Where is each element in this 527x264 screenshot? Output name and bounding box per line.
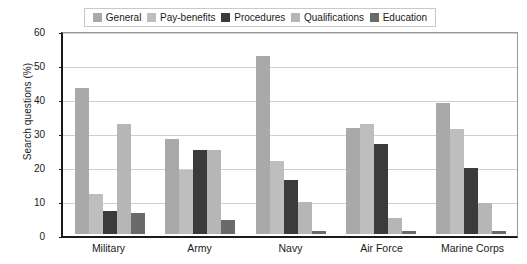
- y-axis-tick-mark: [59, 169, 63, 170]
- bar[interactable]: [312, 231, 326, 234]
- x-axis-tick-label: Army: [154, 242, 245, 254]
- x-axis-tick-label: Air Force: [336, 242, 427, 254]
- bar[interactable]: [117, 124, 131, 234]
- bar[interactable]: [492, 231, 506, 234]
- bar[interactable]: [464, 168, 478, 234]
- bar[interactable]: [374, 144, 388, 234]
- bar[interactable]: [75, 88, 89, 234]
- bar[interactable]: [131, 213, 145, 234]
- bar[interactable]: [284, 180, 298, 234]
- bar[interactable]: [450, 129, 464, 234]
- bar[interactable]: [207, 150, 221, 234]
- legend-swatch-icon: [221, 13, 230, 22]
- bar-chart: General Pay-benefits Procedures Qualific…: [0, 0, 527, 264]
- y-axis-tick-label: 40: [17, 96, 45, 106]
- bar[interactable]: [478, 203, 492, 234]
- y-axis-tick-mark: [59, 33, 63, 34]
- bar-groups: [65, 33, 516, 234]
- bar[interactable]: [402, 231, 416, 234]
- x-axis-tick-label: Navy: [245, 242, 336, 254]
- y-axis-tick-mark: [59, 67, 63, 68]
- bar[interactable]: [256, 56, 270, 234]
- bar[interactable]: [270, 161, 284, 234]
- bar[interactable]: [346, 128, 360, 234]
- y-axis-tick-mark: [59, 237, 63, 238]
- y-axis-tick-label: 0: [17, 232, 45, 242]
- bar[interactable]: [221, 220, 235, 234]
- x-axis-tick-label: Marine Corps: [427, 242, 518, 254]
- legend-item-label: Procedures: [234, 13, 285, 23]
- legend-item[interactable]: Education: [370, 13, 427, 23]
- legend-swatch-icon: [291, 13, 300, 22]
- legend-item[interactable]: Procedures: [221, 13, 285, 23]
- chart-legend: General Pay-benefits Procedures Qualific…: [84, 8, 436, 27]
- legend-swatch-icon: [147, 13, 156, 22]
- plot-area: 0102030405060: [61, 32, 518, 238]
- x-axis-labels: MilitaryArmyNavyAir ForceMarine Corps: [63, 242, 518, 254]
- y-axis-tick-mark: [59, 203, 63, 204]
- legend-item[interactable]: General: [93, 13, 142, 23]
- bar[interactable]: [165, 139, 179, 234]
- legend-item-label: General: [106, 13, 142, 23]
- bar[interactable]: [179, 170, 193, 234]
- y-axis-tick-label: 10: [17, 198, 45, 208]
- legend-item[interactable]: Qualifications: [291, 13, 364, 23]
- bar[interactable]: [360, 124, 374, 234]
- legend-item-label: Education: [383, 13, 427, 23]
- bar[interactable]: [388, 218, 402, 234]
- bar[interactable]: [298, 202, 312, 234]
- y-axis-tick-mark: [59, 135, 63, 136]
- bar[interactable]: [103, 211, 117, 234]
- y-axis-tick-mark: [59, 101, 63, 102]
- bar-group: [245, 33, 335, 234]
- y-axis-tick-label: 50: [17, 62, 45, 72]
- legend-item-label: Qualifications: [304, 13, 364, 23]
- bar[interactable]: [436, 103, 450, 234]
- bar-group: [65, 33, 155, 234]
- x-axis-tick-label: Military: [63, 242, 154, 254]
- legend-swatch-icon: [370, 13, 379, 22]
- bar[interactable]: [89, 194, 103, 234]
- bar[interactable]: [193, 150, 207, 234]
- bar-group: [336, 33, 426, 234]
- bar-group: [426, 33, 516, 234]
- legend-item-label: Pay-benefits: [160, 13, 216, 23]
- bar-group: [155, 33, 245, 234]
- y-axis-tick-label: 30: [17, 130, 45, 140]
- legend-swatch-icon: [93, 13, 102, 22]
- legend-item[interactable]: Pay-benefits: [147, 13, 216, 23]
- y-axis-tick-label: 60: [17, 28, 45, 38]
- y-axis-tick-label: 20: [17, 164, 45, 174]
- y-axis-title: Search questions (%): [22, 17, 33, 207]
